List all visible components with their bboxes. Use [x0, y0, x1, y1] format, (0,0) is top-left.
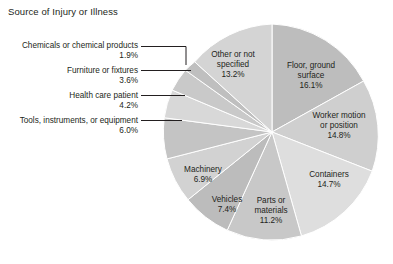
slice-value-worker-motion: 14.8%	[327, 131, 350, 140]
slice-label-containers: Containers	[309, 170, 349, 179]
callout-health-care-patient: Health care patient 4.2%	[4, 91, 138, 111]
slice-value-containers: 14.7%	[317, 180, 340, 189]
leader-line-chemicals	[141, 47, 186, 66]
callout-furniture-or-fixtures: Furniture or fixtures 3.6%	[4, 66, 138, 86]
callout-chemicals-or-chemical-products: Chemicals or chemical products 1.9%	[4, 41, 138, 61]
callout-tools-instruments-or-equipment: Tools, instruments, or equipment 6.0%	[0, 116, 138, 136]
pie-chart-figure: Source of Injury or Illness	[0, 0, 393, 264]
slice-value-other-or-not-specified: 13.2%	[221, 70, 244, 79]
slice-value-parts-or-materials: 11.2%	[260, 216, 283, 225]
slice-value-machinery: 6.9%	[194, 175, 213, 184]
callout-label-health-care-patient: Health care patient	[69, 91, 138, 100]
callout-label-chemicals: Chemicals or chemical products	[22, 41, 138, 50]
callout-label-furniture: Furniture or fixtures	[67, 66, 138, 75]
slice-label-vehicles: Vehicles	[212, 195, 243, 204]
callout-value-health-care-patient: 4.2%	[4, 101, 138, 111]
slice-value-vehicles: 7.4%	[218, 205, 237, 214]
callout-value-furniture: 3.6%	[4, 76, 138, 86]
slice-label-other-or-not-specified-line2: specified	[217, 60, 250, 69]
slice-label-worker-motion: Worker motion	[312, 111, 366, 120]
slice-label-floor-ground-surface: Floor, ground	[287, 61, 336, 70]
slice-label-parts-or-materials: Parts or	[257, 196, 286, 205]
slice-value-floor-ground-surface: 16.1%	[299, 81, 322, 90]
callout-label-tools: Tools, instruments, or equipment	[20, 116, 138, 125]
slice-label-other-or-not-specified: Other or not	[211, 50, 255, 59]
slice-label-parts-or-materials-line2: materials	[254, 206, 287, 215]
callout-value-tools: 6.0%	[0, 126, 138, 136]
callout-value-chemicals: 1.9%	[4, 51, 138, 61]
slice-label-floor-ground-surface-line2: surface	[298, 71, 325, 80]
slice-label-worker-motion-line2: or position	[320, 121, 358, 130]
slice-label-machinery: Machinery	[184, 165, 223, 174]
